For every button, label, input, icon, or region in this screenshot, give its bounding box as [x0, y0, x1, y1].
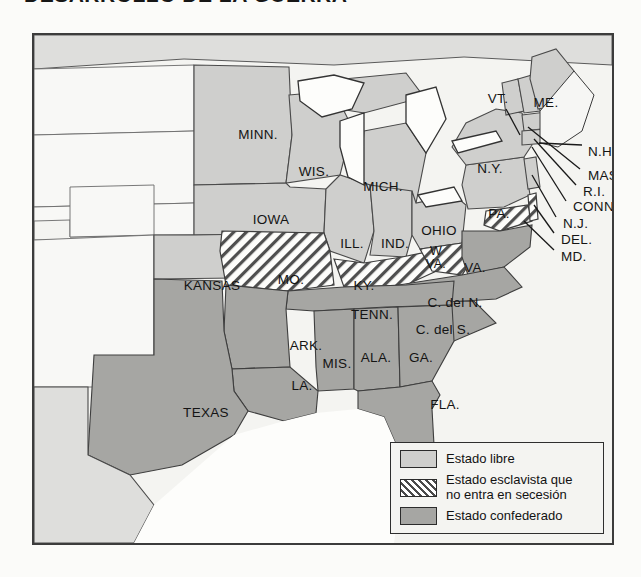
legend-item-confederate: Estado confederado — [400, 507, 594, 525]
legend-item-slave-nonseceding: Estado esclavista que no entra en secesi… — [400, 473, 594, 502]
map-frame: MINN.WIS.MICH.IOWAILL.IND.OHIOPA.N.Y.VT.… — [32, 33, 614, 545]
state-minnesota — [194, 65, 292, 185]
state-mississippi — [314, 309, 354, 391]
state-illinois — [324, 175, 374, 263]
state-arkansas — [224, 285, 290, 369]
slave-nonseceding-swatch — [400, 479, 437, 497]
confederate-state-swatch — [400, 507, 437, 525]
map-legend: Estado libre Estado esclavista que no en… — [390, 442, 604, 534]
state-iowa — [194, 183, 326, 235]
state-delaware — [528, 193, 538, 221]
state-indiana — [370, 185, 412, 257]
state-alabama — [354, 307, 400, 391]
legend-label-confederate: Estado confederado — [446, 509, 562, 524]
territory-dakota-north — [34, 65, 194, 135]
free-state-swatch — [400, 450, 437, 468]
legend-item-free-state: Estado libre — [400, 450, 594, 468]
page-title: DESARROLLO DE LA GUERRA — [24, 0, 347, 7]
legend-label-slave-nonseceding: Estado esclavista que no entra en secesi… — [446, 473, 572, 502]
territory-colorado — [70, 185, 154, 237]
legend-label-free-state: Estado libre — [446, 452, 515, 467]
state-missouri — [220, 231, 334, 291]
